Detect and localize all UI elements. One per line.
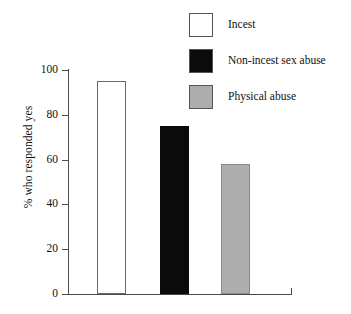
- y-tick-label-60: 60: [18, 154, 58, 166]
- bar-chart-figure: Incest Non-incest sex abuse Physical abu…: [0, 0, 351, 314]
- y-tick-label-80: 80: [18, 109, 58, 121]
- bar-incest: [97, 81, 126, 294]
- y-tick-40: [62, 204, 68, 205]
- y-tick-80: [62, 115, 68, 116]
- y-tick-label-40: 40: [18, 198, 58, 210]
- y-tick-60: [62, 160, 68, 161]
- legend-label-non-incest-sex-abuse: Non-incest sex abuse: [228, 55, 326, 67]
- y-tick-label-20: 20: [18, 243, 58, 255]
- legend-label-incest: Incest: [228, 19, 255, 31]
- bar-non-incest-sex-abuse: [160, 126, 189, 294]
- legend-swatch-non-incest-sex-abuse: [189, 49, 213, 73]
- legend-swatch-incest: [189, 13, 213, 37]
- y-tick-0: [62, 294, 68, 295]
- bar-physical-abuse: [221, 164, 250, 294]
- legend-item-incest: Incest: [189, 12, 255, 38]
- legend-label-physical-abuse: Physical abuse: [228, 91, 296, 103]
- y-tick-20: [62, 249, 68, 250]
- legend-item-non-incest-sex-abuse: Non-incest sex abuse: [189, 48, 326, 74]
- y-tick-label-100: 100: [18, 64, 58, 76]
- y-axis-line: [68, 69, 69, 295]
- y-tick-100: [62, 70, 68, 71]
- x-axis-end-tick: [291, 288, 292, 295]
- legend-item-physical-abuse: Physical abuse: [189, 84, 296, 110]
- x-axis-line: [68, 294, 292, 295]
- y-tick-label-0: 0: [18, 288, 58, 300]
- legend-swatch-physical-abuse: [189, 85, 213, 109]
